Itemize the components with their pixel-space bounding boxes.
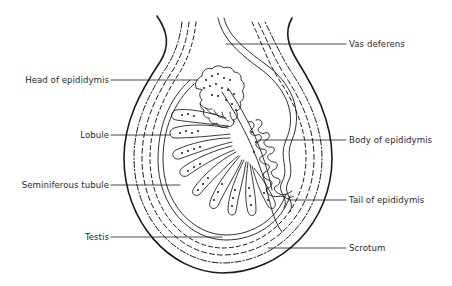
label-scrotum: Scrotum (349, 243, 385, 253)
head-of-epididymis-shape (195, 66, 244, 128)
label-body-of-epididymis: Body of epididymis (349, 135, 432, 145)
label-tail-of-epididymis: Tail of epididymis (349, 195, 424, 205)
label-seminiferous-tubule: Seminiferous tubule (22, 180, 109, 190)
lobules (170, 109, 275, 215)
scrotum-outer-wall (124, 16, 332, 273)
label-vas-deferens: Vas deferens (349, 39, 405, 49)
leader-lines (111, 44, 346, 248)
label-testis: Testis (85, 232, 109, 242)
label-lobule: Lobule (80, 130, 109, 140)
tunica-inner (163, 84, 286, 235)
scrotal-layer-dashed-1 (142, 22, 314, 255)
efferent-ductules (200, 104, 235, 122)
label-head-of-epididymis: Head of epididymis (25, 75, 109, 85)
scrotal-layer-dashed-2 (150, 22, 306, 248)
epididymis-coiled-duct-2 (256, 120, 292, 195)
tubule-dots (179, 73, 269, 207)
